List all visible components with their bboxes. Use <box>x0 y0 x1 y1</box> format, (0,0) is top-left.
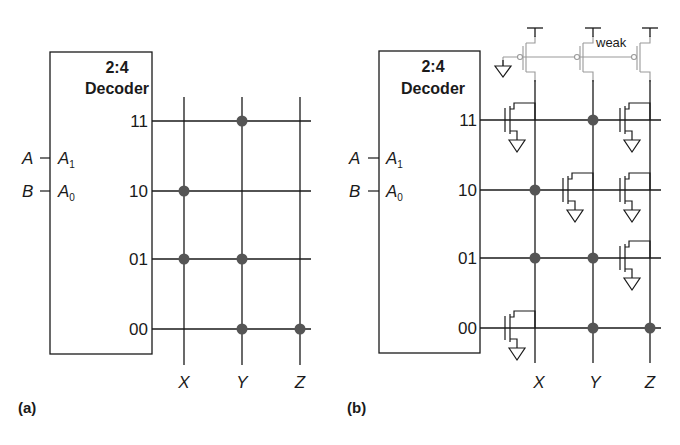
nmos-10-z <box>620 173 650 222</box>
word-lines <box>480 120 661 328</box>
nmos-01-z <box>620 241 650 290</box>
input-signal-a: A <box>21 149 33 168</box>
nmos-00-x <box>505 311 535 360</box>
pin-a0: A0 <box>385 182 403 203</box>
decoder-title-line1: 2:4 <box>421 58 444 75</box>
row-label-10: 10 <box>458 181 477 200</box>
nmos-11-z <box>620 103 650 152</box>
input-signal-b: B <box>349 182 360 201</box>
row-label-11: 11 <box>130 112 148 131</box>
pulldown-transistors <box>505 103 650 360</box>
row-label-11: 11 <box>459 111 477 130</box>
rom-diagram: 2:4 Decoder A A1 B A0 11 10 01 00 <box>0 0 680 445</box>
nmos-11-x <box>505 103 535 152</box>
panel-b: 2:4 Decoder A A1 B A0 11 10 01 00 <box>347 28 661 416</box>
decoder-title-line2: Decoder <box>401 80 465 97</box>
input-signal-a: A <box>348 149 360 168</box>
pin-a1: A1 <box>57 149 75 170</box>
input-signal-b: B <box>22 182 33 201</box>
panel-label-a: (a) <box>18 399 36 416</box>
column-label-y: Y <box>589 373 602 392</box>
nmos-10-y <box>563 173 593 222</box>
panel-label-b: (b) <box>347 399 366 416</box>
row-label-00: 00 <box>129 320 148 339</box>
column-label-y: Y <box>236 373 249 392</box>
pin-a1: A1 <box>385 149 403 170</box>
row-label-10: 10 <box>129 182 148 201</box>
decoder-title-line2: Decoder <box>85 80 149 97</box>
row-label-01: 01 <box>458 249 477 268</box>
column-label-z: Z <box>294 373 306 392</box>
weak-label: weak <box>595 35 627 50</box>
column-label-z: Z <box>644 373 656 392</box>
decoder-block <box>50 52 152 354</box>
pin-a0: A0 <box>57 182 75 203</box>
column-label-x: X <box>532 373 545 392</box>
row-label-01: 01 <box>129 250 148 269</box>
panel-a: 2:4 Decoder A A1 B A0 11 10 01 00 <box>18 52 311 416</box>
decoder-title-line1: 2:4 <box>105 59 128 76</box>
row-label-00: 00 <box>458 319 477 338</box>
column-label-x: X <box>177 373 190 392</box>
word-lines <box>152 121 311 329</box>
vdd-icons <box>527 28 658 37</box>
ground-icon <box>495 60 511 77</box>
weak-pullup-transistors <box>503 36 650 82</box>
